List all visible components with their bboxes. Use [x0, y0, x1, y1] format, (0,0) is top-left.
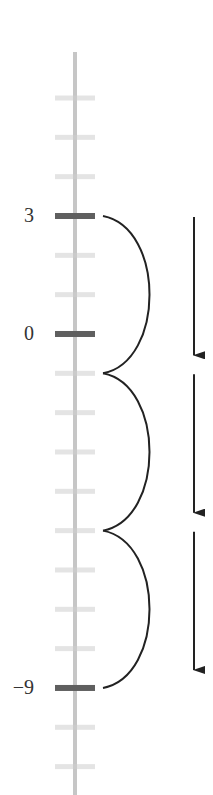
minor-ticks — [55, 52, 95, 795]
jump-arc — [103, 373, 150, 530]
major-tick — [55, 331, 95, 337]
tick-label: 3 — [0, 205, 34, 225]
major-tick — [55, 213, 95, 219]
jump-arc — [103, 216, 150, 373]
major-tick — [55, 685, 95, 691]
jump-arcs — [103, 216, 150, 688]
tick-label: 0 — [0, 323, 34, 343]
tick-label: −9 — [0, 677, 34, 697]
jump-arc — [103, 531, 150, 688]
